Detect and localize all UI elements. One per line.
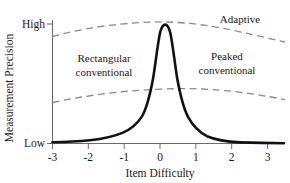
x-tick-label--2: -2: [84, 151, 94, 163]
y-axis-high-label: High: [22, 18, 45, 31]
curve-rectangular-conventional: [53, 89, 286, 103]
x-tick-label-3: 3: [265, 151, 271, 163]
chart-figure: High Low -3 -2 -1 0 1 2 3 Item Difficult…: [0, 0, 290, 183]
y-axis-low-label: Low: [24, 137, 46, 149]
x-axis-title: Item Difficulty: [125, 167, 194, 180]
annotation-peaked-line2: conventional: [199, 64, 256, 76]
annotation-peaked-line1: Peaked: [211, 50, 243, 62]
x-tick-label--1: -1: [119, 151, 129, 163]
annotation-adaptive: Adaptive: [220, 13, 260, 25]
annotation-rectangular-line2: conventional: [76, 66, 133, 78]
x-tick-label-1: 1: [193, 151, 199, 163]
x-tick-label--3: -3: [48, 151, 58, 163]
x-tick-label-2: 2: [229, 151, 235, 163]
chart-plot-area: High Low -3 -2 -1 0 1 2 3 Item Difficult…: [0, 0, 290, 183]
annotation-rectangular-line1: Rectangular: [77, 52, 130, 64]
y-axis-title: Measurement Precision: [3, 34, 15, 143]
x-tick-label-0: 0: [157, 151, 163, 163]
curve-peaked-conventional: [53, 25, 285, 144]
